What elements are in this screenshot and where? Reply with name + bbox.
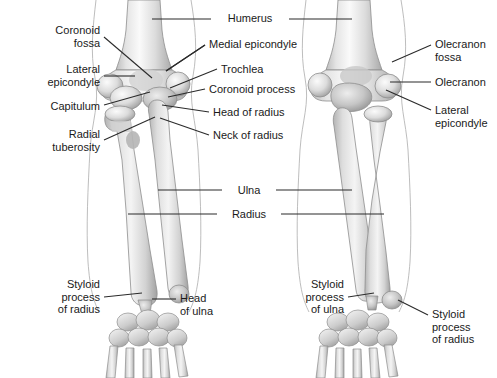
label-olecranon-fossa: Olecranon fossa: [435, 38, 497, 63]
label-head-of-radius: Head of radius: [213, 106, 313, 119]
label-coronoid-process: Coronoid process: [209, 83, 319, 96]
label-capitulum: Capitulum: [4, 100, 100, 113]
label-lateral-epicondyle-left: Lateral epicondyle: [4, 63, 100, 88]
label-styloid-process-of-radius-right: Styloid process of radius: [432, 308, 497, 346]
label-humerus: Humerus: [215, 12, 285, 25]
label-medial-epicondyle: Medial epicondyle: [209, 38, 319, 51]
label-radius: Radius: [221, 208, 277, 221]
label-styloid-process-of-radius-left: Styloid process of radius: [4, 278, 100, 316]
label-layer: Coronoid fossaLateral epicondyleCapitulu…: [0, 0, 497, 378]
label-styloid-process-of-ulna: Styloid process of ulna: [272, 278, 344, 316]
anatomy-figure: Coronoid fossaLateral epicondyleCapitulu…: [0, 0, 497, 378]
label-radial-tuberosity: Radial tuberosity: [4, 128, 100, 153]
label-olecranon: Olecranon: [435, 76, 497, 89]
label-ulna: Ulna: [226, 184, 272, 197]
label-neck-of-radius: Neck of radius: [213, 129, 313, 142]
label-trochlea: Trochlea: [221, 63, 311, 76]
label-coronoid-fossa: Coronoid fossa: [8, 24, 100, 49]
label-lateral-epicondyle-right: Lateral epicondyle: [435, 104, 497, 129]
label-head-of-ulna: Head of ulna: [180, 292, 240, 317]
